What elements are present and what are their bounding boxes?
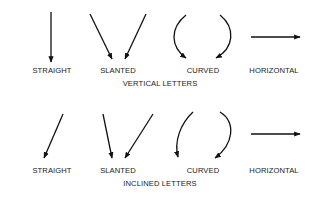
slanted-right-arrow-icon (125, 14, 146, 59)
label-curved-vertical: CURVED (187, 67, 220, 75)
slanted-left-inclined-arrow-icon (103, 114, 112, 158)
label-horizontal-vertical: HORIZONTAL (249, 67, 298, 75)
curved-left-arrow-icon (174, 15, 186, 58)
caption-inclined-letters: INCLINED LETTERS (123, 180, 196, 188)
label-horizontal-inclined: HORIZONTAL (249, 167, 298, 175)
label-slanted-vertical: SLANTED (100, 67, 136, 75)
label-straight-inclined: STRAIGHT (32, 167, 71, 175)
label-slanted-inclined: SLANTED (100, 167, 136, 175)
curved-right-arrow-icon (216, 15, 231, 58)
label-curved-inclined: CURVED (187, 167, 220, 175)
curved-left-inclined-arrow-icon (177, 112, 193, 157)
straight-inclined-arrow-icon (44, 114, 63, 158)
slanted-right-inclined-arrow-icon (125, 114, 153, 158)
caption-vertical-letters: VERTICAL LETTERS (123, 80, 198, 88)
slanted-left-arrow-icon (90, 14, 112, 59)
curved-right-inclined-arrow-icon (215, 112, 231, 158)
label-straight-vertical: STRAIGHT (32, 67, 71, 75)
